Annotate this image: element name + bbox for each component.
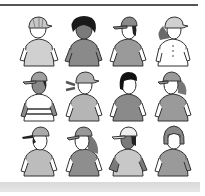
child-figure-10 — [62, 123, 107, 178]
child-figure-4 — [151, 14, 196, 69]
child-bob-hair-icon — [152, 124, 194, 178]
child-figure-3 — [106, 14, 151, 69]
child-backwards-cap-icon — [18, 124, 60, 178]
child-figure-6 — [62, 69, 107, 124]
child-black-hair-icon — [107, 69, 149, 123]
child-figure-5 — [17, 69, 62, 124]
child-striped-shirt-icon — [18, 69, 60, 123]
child-figure-2 — [62, 14, 107, 69]
child-curly-hair-icon — [63, 14, 105, 68]
child-figure-9 — [17, 123, 62, 178]
child-with-cap-long-hair-icon — [63, 124, 105, 178]
child-pigtails-cap-icon — [63, 69, 105, 123]
child-figure-11 — [106, 123, 151, 178]
child-with-cap-icon — [18, 14, 60, 68]
child-figure-12 — [151, 123, 196, 178]
child-with-cap-icon — [107, 124, 149, 178]
child-figure-8 — [151, 69, 196, 124]
child-figure-7 — [106, 69, 151, 124]
child-with-cap-icon — [107, 14, 149, 68]
bottom-bar — [0, 182, 200, 192]
child-with-cap-long-hair-icon — [152, 14, 194, 68]
top-rule — [0, 4, 198, 6]
children-illustration-grid — [17, 14, 195, 178]
child-with-cap-long-hair-icon — [152, 69, 194, 123]
child-figure-1 — [17, 14, 62, 69]
